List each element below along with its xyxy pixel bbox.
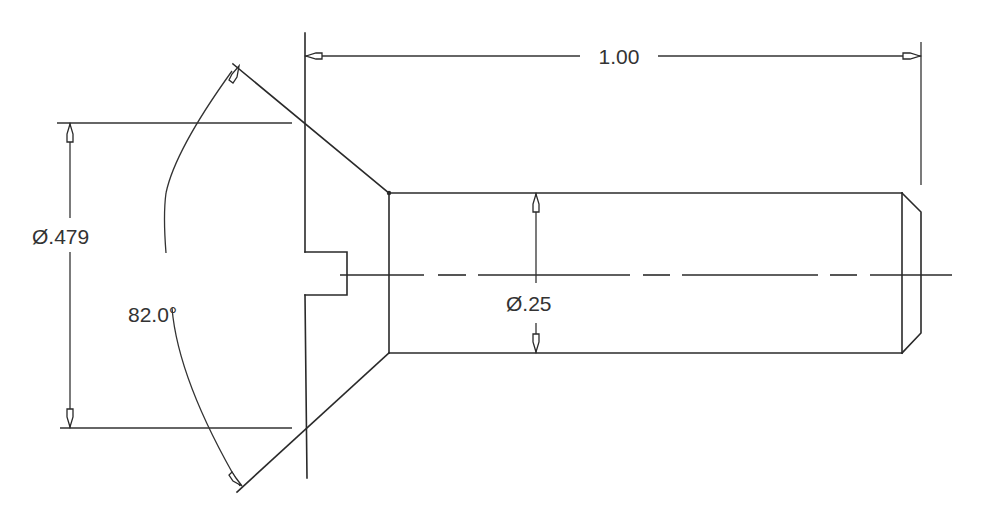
angle-label: 82.0° — [128, 303, 177, 326]
arrow-left-icon — [306, 53, 322, 59]
head-taper-upper — [233, 64, 389, 193]
screw-technical-drawing: 1.00 Ø.479 82.0° Ø.25 — [0, 0, 985, 516]
shank-arrow-up-icon — [533, 194, 539, 212]
length-dimension: 1.00 — [305, 42, 921, 185]
shank-diameter-label: Ø.25 — [506, 292, 552, 315]
arrow-up-icon — [67, 124, 73, 142]
angle-arc-upper-lower — [165, 193, 167, 253]
angle-dimension: 82.0° — [128, 66, 242, 486]
slot — [305, 252, 347, 295]
head-diameter-label: Ø.479 — [32, 225, 89, 248]
head-face-line-lower — [305, 295, 307, 478]
angle-arrow-bottom-icon — [229, 472, 242, 486]
shank-arrow-down-icon — [533, 334, 539, 352]
screw-outline — [233, 33, 921, 492]
length-label: 1.00 — [599, 45, 640, 68]
angle-arc-lower — [172, 308, 240, 486]
head-diameter-dimension: Ø.479 — [32, 123, 292, 428]
angle-arrow-top-icon — [229, 66, 239, 83]
head-taper-lower — [237, 353, 389, 492]
shank-diameter-dimension: Ø.25 — [506, 193, 552, 353]
arrow-down-icon — [67, 409, 73, 427]
arrow-right-icon — [903, 53, 920, 59]
angle-arc-upper — [166, 71, 232, 193]
shank-end-chamfer — [902, 193, 921, 353]
